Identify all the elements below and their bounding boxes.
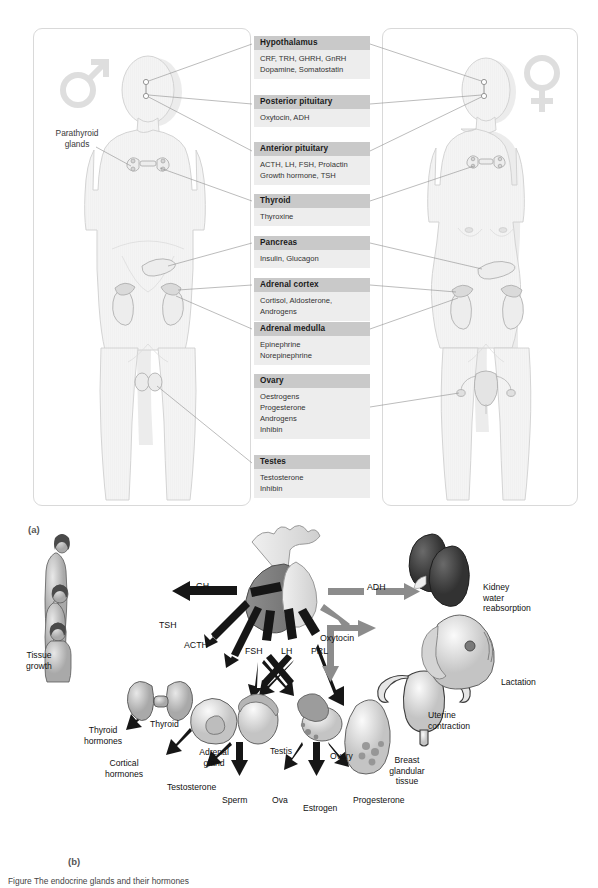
- target-label-breast-glandular-tissue: Breast glandular tissue: [376, 755, 438, 787]
- tissue-growth-line-1: Tissue: [10, 650, 68, 661]
- parathyroid-line-1: Parathyroid: [42, 128, 112, 139]
- hormone-line: Inhibin: [260, 424, 365, 435]
- hormone-line: Growth hormone, TSH: [260, 170, 365, 181]
- hormone-line: Oestrogens: [260, 391, 365, 402]
- gland-block-adrenal-cortex: Adrenal cortex Cortisol, Aldosterone, An…: [254, 278, 370, 321]
- female-symbol-icon: [515, 52, 569, 116]
- gland-hormones: Cortisol, Aldosterone, Androgens: [254, 292, 370, 321]
- target-label-kidney-water-reabsorption: Kidney water reabsorption: [483, 582, 531, 614]
- endocrine-system-figure: Parathyroid glands Hypothalamus CRF, TRH…: [0, 0, 598, 888]
- adrenal-gland-line-2: gland: [186, 758, 242, 769]
- gland-block-ovary: Ovary Oestrogens Progesterone Androgens …: [254, 374, 370, 439]
- male-right-leg: [158, 348, 196, 500]
- panel-a-endocrine-glands: Parathyroid glands Hypothalamus CRF, TRH…: [0, 0, 598, 520]
- target-label-thyroid-hormones: Thyroid hormones: [68, 725, 138, 746]
- female-left-leg: [441, 348, 478, 500]
- hormone-line: Norepinephrine: [260, 350, 365, 361]
- hormone-line: Epinephrine: [260, 339, 365, 350]
- gland-hormones: CRF, TRH, GHRH, GnRH Dopamine, Somatosta…: [254, 50, 370, 79]
- hormone-label-oxytocin: Oxytocin: [320, 633, 354, 643]
- target-label-thyroid: Thyroid: [150, 719, 179, 730]
- gland-hormones: Oestrogens Progesterone Androgens Inhibi…: [254, 388, 370, 439]
- gland-hormones: Oxytocin, ADH: [254, 109, 370, 127]
- cortical-hormones-line-1: Cortical: [88, 758, 160, 769]
- gland-hormones: Insulin, Glucagon: [254, 250, 370, 268]
- male-pituitary-marker: [143, 93, 148, 98]
- hormone-label-fsh: FSH: [245, 646, 263, 656]
- testis-icon: [238, 694, 278, 744]
- uterine-line-1: Uterine: [428, 710, 470, 721]
- male-symbol-icon: [55, 52, 115, 112]
- target-label-tissue-growth: Tissue growth: [10, 650, 68, 671]
- target-label-uterine-contraction: Uterine contraction: [428, 710, 470, 731]
- hormone-line: Oxytocin, ADH: [260, 112, 365, 123]
- panel-b-graphics: [0, 520, 598, 870]
- gland-name: Anterior pituitary: [254, 142, 370, 156]
- female-head: [462, 58, 510, 122]
- female-right-ovary: [507, 390, 515, 397]
- breast-line-3: tissue: [376, 776, 438, 787]
- parathyroid-line-2: glands: [42, 139, 112, 150]
- target-label-adrenal-gland: Adrenal gland: [186, 747, 242, 768]
- hormone-line: Thyroxine: [260, 211, 365, 222]
- target-label-cortical-hormones: Cortical hormones: [88, 758, 160, 779]
- target-label-progesterone: Progesterone: [353, 795, 405, 806]
- gland-name: Thyroid: [254, 194, 370, 208]
- cortical-hormones-line-2: hormones: [88, 769, 160, 780]
- female-hypothalamus-marker: [481, 79, 486, 84]
- thyroid-hormones-line-2: hormones: [68, 736, 138, 747]
- hormone-label-gh: GH: [196, 581, 209, 591]
- hormone-line: Cortisol, Aldosterone,: [260, 295, 365, 306]
- adrenal-gland-icon: [191, 698, 237, 744]
- gland-block-adrenal-medulla: Adrenal medulla Epinephrine Norepinephri…: [254, 322, 370, 365]
- target-label-testosterone: Testosterone: [167, 782, 216, 793]
- gland-name: Posterior pituitary: [254, 95, 370, 109]
- kidney-line-1: Kidney: [483, 582, 531, 593]
- uterine-line-2: contraction: [428, 721, 470, 732]
- male-left-leg: [100, 348, 138, 500]
- target-label-ova: Ova: [272, 795, 288, 806]
- female-body-illustration: [428, 58, 531, 500]
- gland-block-hypothalamus: Hypothalamus CRF, TRH, GHRH, GnRH Dopami…: [254, 36, 370, 79]
- hormone-line: Dopamine, Somatostatin: [260, 64, 365, 75]
- gland-block-pancreas: Pancreas Insulin, Glucagon: [254, 236, 370, 268]
- thyroid-gland-icon: [127, 681, 192, 720]
- gland-name: Pancreas: [254, 236, 370, 250]
- hormone-label-tsh: TSH: [159, 620, 177, 630]
- gland-block-posterior-pituitary: Posterior pituitary Oxytocin, ADH: [254, 95, 370, 127]
- target-label-ovary: Ovary: [330, 751, 353, 762]
- figure-caption: Figure The endocrine glands and their ho…: [8, 876, 189, 886]
- hormone-label-adh: ADH: [367, 582, 386, 592]
- gland-hormones: Testosterone Inhibin: [254, 469, 370, 498]
- gland-name: Hypothalamus: [254, 36, 370, 50]
- gland-name: Adrenal cortex: [254, 278, 370, 292]
- hormone-label-lh: LH: [281, 646, 292, 656]
- female-right-leg: [494, 348, 531, 500]
- kidney-line-2: water: [483, 593, 531, 604]
- male-head: [122, 56, 174, 124]
- hormone-label-prl: PRL: [311, 646, 328, 656]
- kidney-line-3: reabsorption: [483, 603, 531, 614]
- target-label-sperm: Sperm: [222, 795, 247, 806]
- gland-hormones: Epinephrine Norepinephrine: [254, 336, 370, 365]
- gland-hormones: ACTH, LH, FSH, Prolactin Growth hormone,…: [254, 156, 370, 185]
- male-hypothalamus-marker: [143, 79, 148, 84]
- target-label-lactation: Lactation: [501, 677, 536, 688]
- hormone-line: Androgens: [260, 306, 365, 317]
- male-body-illustration: [85, 56, 206, 500]
- breast-line-2: glandular: [376, 766, 438, 777]
- female-pituitary-marker: [481, 93, 486, 98]
- thyroid-hormones-line-1: Thyroid: [68, 725, 138, 736]
- gland-hormones: Thyroxine: [254, 208, 370, 226]
- adrenal-gland-line-1: Adrenal: [186, 747, 242, 758]
- hormone-line: Progesterone: [260, 402, 365, 413]
- hormone-line: ACTH, LH, FSH, Prolactin: [260, 159, 365, 170]
- hormone-line: Insulin, Glucagon: [260, 253, 365, 264]
- hormone-line: Testosterone: [260, 472, 365, 483]
- gland-block-testes: Testes Testosterone Inhibin: [254, 455, 370, 498]
- panel-b-letter: (b): [68, 856, 80, 867]
- gland-name: Testes: [254, 455, 370, 469]
- hormone-line: CRF, TRH, GHRH, GnRH: [260, 53, 365, 64]
- gland-name: Adrenal medulla: [254, 322, 370, 336]
- parathyroid-glands-label: Parathyroid glands: [42, 128, 112, 151]
